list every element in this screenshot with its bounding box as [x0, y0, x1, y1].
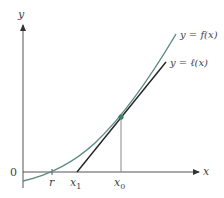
curve-label: y = f(x) [179, 29, 218, 40]
x0-label: x0 [114, 176, 125, 191]
curve-f [23, 34, 176, 181]
x-axis-label: x [203, 165, 210, 178]
diagram-canvas: y x 0 r x1 x0 y = f(x) y = ℓ(x) [0, 0, 224, 198]
root-label: r [49, 176, 55, 189]
x1-label: x1 [70, 176, 81, 191]
origin-label: 0 [10, 166, 17, 179]
tangent-point [118, 114, 123, 119]
newton-method-diagram: y x 0 r x1 x0 y = f(x) y = ℓ(x) [0, 0, 224, 198]
y-axis-label: y [17, 8, 25, 21]
tangent-label: y = ℓ(x) [169, 57, 208, 68]
